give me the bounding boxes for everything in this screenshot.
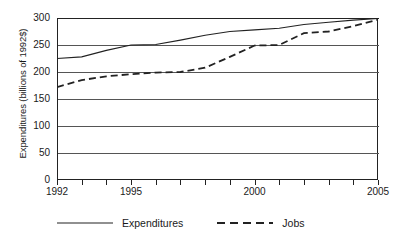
legend-swatch-dashed-line-icon bbox=[217, 218, 273, 228]
series-line-jobs bbox=[57, 20, 378, 88]
x-tick-mark bbox=[255, 180, 256, 185]
legend-label-jobs: Jobs bbox=[282, 217, 304, 229]
x-tick-mark bbox=[156, 180, 157, 185]
chart-legend: Expenditures Jobs bbox=[57, 212, 387, 234]
x-tick-mark bbox=[329, 180, 330, 185]
legend-entry-expenditures: Expenditures bbox=[57, 217, 183, 229]
data-series-layer bbox=[57, 18, 378, 180]
x-tick-mark bbox=[304, 180, 305, 185]
x-tick-label: 1992 bbox=[37, 186, 77, 197]
chart-figure: Expenditures (billions of 1992$) 0501001… bbox=[0, 0, 397, 240]
x-tick-mark bbox=[279, 180, 280, 185]
x-tick-mark bbox=[57, 180, 58, 185]
x-tick-mark bbox=[106, 180, 107, 185]
legend-label-expenditures: Expenditures bbox=[122, 217, 183, 229]
y-tick-label: 150 bbox=[14, 94, 50, 104]
x-tick-mark bbox=[205, 180, 206, 185]
legend-swatch-solid-line-icon bbox=[57, 218, 113, 228]
y-tick-label: 100 bbox=[14, 121, 50, 131]
series-line-expenditures bbox=[57, 19, 378, 59]
x-tick-mark bbox=[378, 180, 379, 185]
y-tick-label: 200 bbox=[14, 67, 50, 77]
x-tick-mark bbox=[82, 180, 83, 185]
x-tick-mark bbox=[353, 180, 354, 185]
y-tick-label: 300 bbox=[14, 13, 50, 23]
legend-entry-jobs: Jobs bbox=[217, 217, 304, 229]
x-tick-label: 1995 bbox=[111, 186, 151, 197]
y-tick-label: 0 bbox=[14, 175, 50, 185]
x-tick-mark bbox=[131, 180, 132, 185]
x-tick-mark bbox=[180, 180, 181, 185]
x-tick-label: 2005 bbox=[358, 186, 397, 197]
y-tick-label: 50 bbox=[14, 148, 50, 158]
y-tick-label: 250 bbox=[14, 40, 50, 50]
x-tick-mark bbox=[230, 180, 231, 185]
x-tick-label: 2000 bbox=[235, 186, 275, 197]
